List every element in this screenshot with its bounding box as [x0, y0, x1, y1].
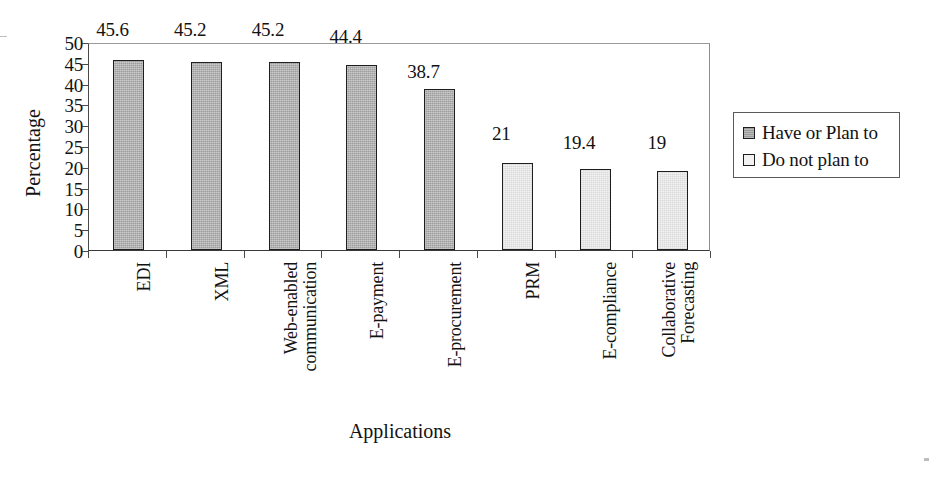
- legend-entry-have-or-plan-to[interactable]: Have or Plan to: [743, 120, 899, 145]
- y-tick-label: 30: [64, 117, 83, 136]
- bar-prm[interactable]: [502, 163, 533, 250]
- bar-chart-figure: Percentage 50 45 40 35 30 25 20 15 10 5 …: [0, 0, 935, 477]
- data-label-e-compliance: 19.4: [539, 133, 619, 152]
- x-category-label-web-enabled-line1: Web-enabled: [282, 262, 300, 412]
- x-category-label-collaborative-line2: Forecasting: [679, 262, 697, 412]
- legend-label-do-not-plan-to: Do not plan to: [762, 150, 868, 169]
- x-tick-mark: [555, 251, 556, 258]
- bar-e-compliance[interactable]: [580, 169, 611, 250]
- bar-collaborative-forecasting[interactable]: [657, 171, 688, 250]
- scan-artifact: [924, 458, 929, 461]
- x-category-label-e-procurement: E-procurement: [446, 262, 464, 412]
- data-label-edi: 45.6: [73, 20, 153, 39]
- x-category-label-e-compliance: E-compliance: [601, 262, 619, 412]
- legend-swatch-light-gray-icon: [743, 154, 755, 166]
- x-category-label-e-payment: E-payment: [368, 262, 386, 412]
- legend-label-have-or-plan-to: Have or Plan to: [762, 123, 878, 142]
- x-category-label-collaborative-line1: Collaborative: [660, 262, 678, 412]
- x-tick-mark: [321, 251, 322, 258]
- data-label-web-enabled-communication: 45.2: [228, 20, 308, 39]
- bar-edi[interactable]: [113, 60, 144, 250]
- legend-swatch-dark-gray-icon: [743, 127, 755, 139]
- y-tick-label: 45: [64, 55, 83, 74]
- bar-xml[interactable]: [191, 62, 222, 250]
- x-tick-mark: [477, 251, 478, 258]
- y-tick-label: 15: [64, 180, 83, 199]
- x-category-label-web-enabled-line2: communication: [301, 262, 319, 412]
- data-label-xml: 45.2: [150, 20, 230, 39]
- scan-artifact: [0, 36, 7, 37]
- y-axis-tick-labels: 50 45 40 35 30 25 20 15 10 5 0: [40, 0, 83, 477]
- data-label-collaborative-forecasting: 19: [617, 133, 697, 152]
- data-label-e-procurement: 38.7: [384, 62, 464, 81]
- x-axis-title: Applications: [0, 421, 800, 441]
- y-tick-label: 10: [64, 200, 83, 219]
- bar-e-payment[interactable]: [346, 65, 377, 250]
- bar-web-enabled-communication[interactable]: [269, 62, 300, 250]
- x-tick-mark: [399, 251, 400, 258]
- y-tick-label: 25: [64, 138, 83, 157]
- bar-e-procurement[interactable]: [424, 89, 455, 250]
- x-tick-mark: [88, 251, 89, 258]
- x-tick-mark: [166, 251, 167, 258]
- y-tick-label: 35: [64, 96, 83, 115]
- y-tick-label: 20: [64, 159, 83, 178]
- chart-legend: Have or Plan to Do not plan to: [733, 112, 900, 178]
- data-label-prm: 21: [461, 124, 541, 143]
- legend-entry-do-not-plan-to[interactable]: Do not plan to: [743, 147, 899, 172]
- x-category-label-edi: EDI: [135, 262, 153, 412]
- x-tick-mark: [710, 251, 711, 258]
- x-category-label-xml: XML: [213, 262, 231, 412]
- x-tick-mark: [632, 251, 633, 258]
- y-tick-label: 40: [64, 76, 83, 95]
- data-label-e-payment: 44.4: [306, 27, 386, 46]
- x-tick-mark: [244, 251, 245, 258]
- x-category-label-prm: PRM: [524, 262, 542, 412]
